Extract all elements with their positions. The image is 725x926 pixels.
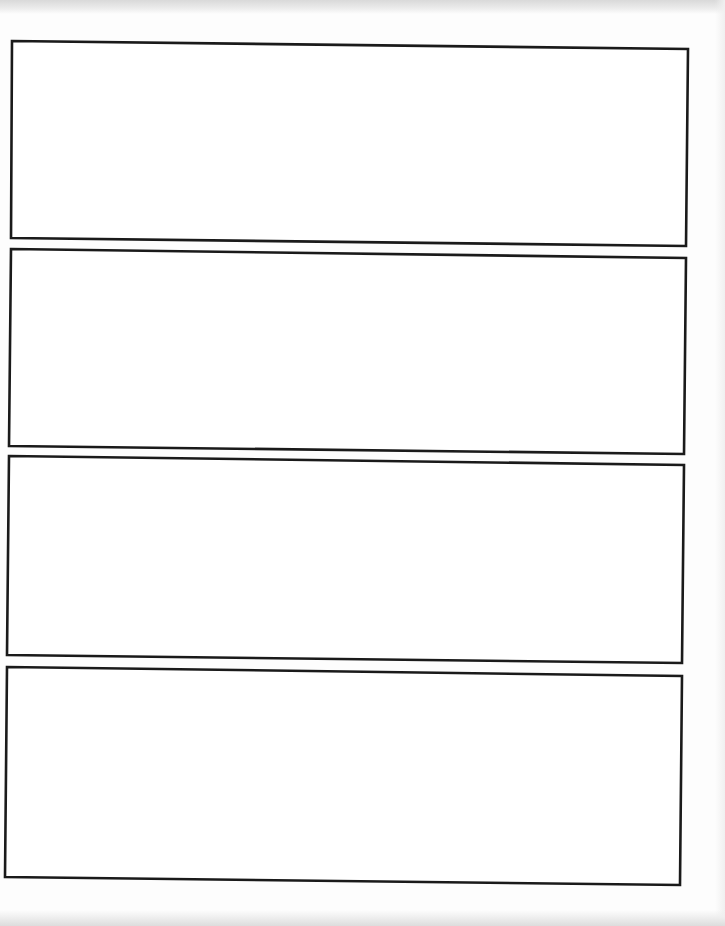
panel-grid — [0, 0, 725, 926]
panel-1 — [11, 41, 688, 246]
panel-2 — [9, 249, 686, 454]
panel-4 — [5, 667, 682, 885]
panel-3 — [7, 456, 684, 663]
scanned-page — [0, 0, 725, 926]
